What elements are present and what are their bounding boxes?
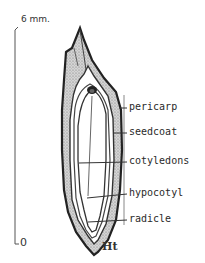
label-radicle: radicle [129,213,171,224]
artist-signature: Ht [102,240,117,253]
scale-top-label: 6 mm. [21,14,50,24]
label-pericarp: pericarp [129,101,177,112]
label-cotyledons: cotyledons [129,155,189,166]
scale-bar [15,27,19,244]
seed-diagram: 6 mm. 0 pericarp seedcoat cotyledons hyp… [0,0,205,263]
label-seedcoat: seedcoat [129,126,177,137]
label-hypocotyl: hypocotyl [129,187,183,198]
scale-bottom-label: 0 [20,236,27,249]
